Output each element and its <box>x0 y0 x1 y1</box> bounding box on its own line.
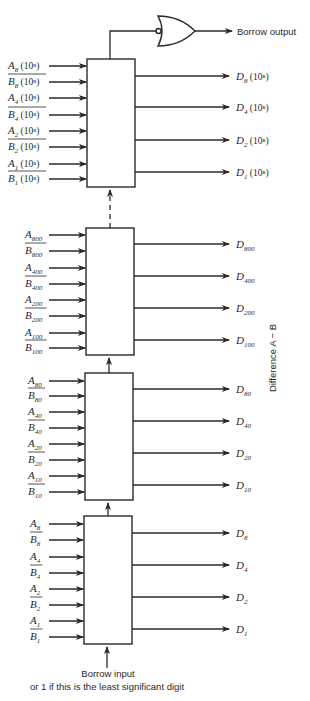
input-label-a1: A1 <box>29 614 40 629</box>
borrow-gate: Borrow output <box>110 16 297 59</box>
input-label-b2: B2 (10ⁿ) <box>8 140 39 155</box>
input-label-a8: A8 <box>29 517 41 532</box>
input-label-b800: B800 <box>25 244 43 259</box>
input-label-a100: A100 <box>24 326 43 341</box>
stage-box-tens <box>85 373 133 500</box>
output-label-d2: D2 <box>235 591 248 606</box>
stage-box-hundreds <box>86 228 134 355</box>
output-label-d4: D4 (10ⁿ) <box>235 101 269 116</box>
output-label-d1: D1 (10ⁿ) <box>235 166 269 181</box>
input-label-b8: B8 (10ⁿ) <box>8 75 39 90</box>
output-label-d10: D10 <box>235 479 251 494</box>
or-gate-icon <box>158 16 195 46</box>
input-label-a20: A20 <box>27 437 42 452</box>
input-label-b400: B400 <box>25 277 43 292</box>
borrow-input-note: or 1 if this is the least significant di… <box>30 681 185 692</box>
input-label-a4: A4 (10ⁿ) <box>7 91 39 106</box>
input-label-a8: A8 (10ⁿ) <box>7 59 39 74</box>
input-label-b20: B20 <box>28 453 42 468</box>
inversion-bubble-icon <box>156 29 161 34</box>
output-label-d200: D200 <box>235 302 255 317</box>
borrow-output-label: Borrow output <box>237 26 297 37</box>
output-label-d4: D4 <box>235 559 248 574</box>
borrow-input-label: Borrow input <box>81 668 135 679</box>
input-label-a80: A80 <box>27 374 42 389</box>
output-label-d800: D800 <box>235 238 255 253</box>
output-label-d40: D40 <box>235 415 251 430</box>
stage-tens: A80B80A40B40A20B20A10B10D80D40D20D10 <box>27 374 251 500</box>
input-label-b4: B4 (10ⁿ) <box>8 108 39 123</box>
input-label-a800: A800 <box>24 228 43 243</box>
difference-label: Difference A − B <box>267 324 278 392</box>
input-label-a1: A1 (10ⁿ) <box>7 157 39 172</box>
input-label-b4: B4 <box>30 566 41 581</box>
stage-box-units <box>84 516 132 644</box>
input-label-b100: B100 <box>25 341 43 356</box>
stage-digit-n: A8 (10ⁿ)B8 (10ⁿ)A4 (10ⁿ)B4 (10ⁿ)A2 (10ⁿ)… <box>7 59 269 187</box>
input-label-b1: B1 (10ⁿ) <box>8 172 39 187</box>
input-label-a2: A2 (10ⁿ) <box>7 124 39 139</box>
input-label-b8: B8 <box>30 533 41 548</box>
input-label-a400: A400 <box>24 261 43 276</box>
bcd-subtractor-diagram: Borrow output A8 (10ⁿ)B8 (10ⁿ)A4 (10ⁿ)B4… <box>0 0 310 701</box>
input-label-a200: A200 <box>24 293 43 308</box>
stage-box-digit-n <box>87 59 135 187</box>
input-label-b40: B40 <box>28 421 42 436</box>
gate-input-wire <box>110 31 156 59</box>
stage-units: A8B8A4B4A2B2A1B1D8D4D2D1 <box>29 517 248 645</box>
input-label-b1: B1 <box>30 630 40 645</box>
input-label-b200: B200 <box>25 309 43 324</box>
input-label-a10: A10 <box>27 469 42 484</box>
output-label-d400: D400 <box>235 270 255 285</box>
output-label-d8: D8 <box>235 527 248 542</box>
input-label-a40: A40 <box>27 405 42 420</box>
input-label-a4: A4 <box>29 550 41 565</box>
input-label-b10: B10 <box>28 485 42 500</box>
output-label-d2: D2 (10ⁿ) <box>235 134 269 149</box>
output-label-d100: D100 <box>235 334 255 349</box>
output-label-d1: D1 <box>235 623 247 638</box>
output-label-d20: D20 <box>235 447 251 462</box>
input-label-a2: A2 <box>29 582 41 597</box>
output-label-d8: D8 (10ⁿ) <box>235 70 269 85</box>
input-label-b80: B80 <box>28 389 42 404</box>
input-label-b2: B2 <box>30 598 41 613</box>
stage-hundreds: A800B800A400B400A200B200A100B100D800D400… <box>24 228 255 356</box>
output-label-d80: D80 <box>235 383 251 398</box>
